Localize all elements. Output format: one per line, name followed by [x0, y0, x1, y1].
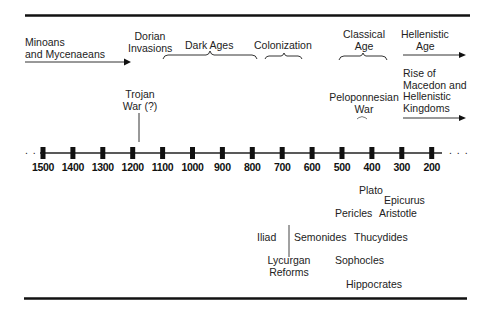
dark-ages-brace [163, 51, 257, 59]
colonization-brace [265, 53, 302, 59]
trojan-war-line1: Trojan [117, 89, 163, 101]
semonides-label: Semonides [294, 232, 347, 244]
macedon-line1: Rise of [403, 68, 467, 80]
macedon-label: Rise of Macedon and Hellenistic Kingdoms [403, 68, 467, 114]
tick-mark [250, 147, 255, 159]
tick-mark [310, 147, 315, 159]
minoans-arrowhead [124, 59, 131, 66]
tick-label: 800 [244, 161, 261, 173]
dorian-line2: Invasions [128, 43, 172, 55]
macedon-line4: Kingdoms [403, 103, 467, 115]
peloponnesian-brace [357, 117, 367, 120]
tick-label: 1200 [122, 161, 144, 173]
epicurus-label: Epicurus [384, 195, 425, 207]
classical-line1: Classical [337, 29, 391, 41]
tick-mark [190, 147, 195, 159]
tick-label: 1300 [92, 161, 114, 173]
minoans-label: Minoans and Mycenaeans [25, 37, 105, 60]
tick-mark [280, 147, 285, 159]
tick-label: 1100 [152, 161, 174, 173]
tick-mark [429, 147, 434, 159]
leading-ellipsis: . . . [25, 145, 45, 157]
tick-label: 1500 [32, 161, 54, 173]
tick-label: 700 [274, 161, 291, 173]
tick-label: 1000 [181, 161, 203, 173]
tick-label: 1400 [62, 161, 84, 173]
macedon-line3: Hellenistic [403, 91, 467, 103]
tick-mark [100, 147, 105, 159]
tick-mark [399, 147, 404, 159]
aristotle-label: Aristotle [379, 208, 417, 220]
tick-mark [220, 147, 225, 159]
tick-mark [70, 147, 75, 159]
lycurgan-line2: Reforms [265, 267, 313, 279]
dorian-line1: Dorian [128, 31, 172, 43]
tick-mark [369, 147, 374, 159]
trojan-war-label: Trojan War (?) [117, 89, 163, 112]
peloponnesian-line2: War [326, 104, 402, 116]
tick-mark [130, 147, 135, 159]
tick-label: 200 [423, 161, 440, 173]
tick-label: 500 [334, 161, 351, 173]
tick-mark [340, 147, 345, 159]
thucydides-label: Thucydides [354, 232, 408, 244]
tick-mark [160, 147, 165, 159]
tick-label: 300 [393, 161, 410, 173]
trojan-war-line2: War (?) [117, 101, 163, 113]
tick-label: 600 [304, 161, 321, 173]
tick-label: 900 [214, 161, 231, 173]
lycurgan-line1: Lycurgan [265, 255, 313, 267]
plato-label: Plato [359, 185, 383, 197]
colonization-label: Colonization [254, 40, 312, 52]
pericles-label: Pericles [335, 208, 372, 220]
lycurgan-label: Lycurgan Reforms [265, 255, 313, 278]
trailing-ellipsis: . . . [449, 145, 469, 157]
minoans-line2: and Mycenaeans [25, 49, 105, 61]
hellenistic-line2: Age [401, 41, 449, 53]
peloponnesian-war-label: Peloponnesian War [326, 92, 402, 115]
classical-label: Classical Age [337, 29, 391, 52]
hellenistic-arrowhead [459, 52, 466, 58]
classical-brace [339, 53, 387, 60]
dark-ages-label: Dark Ages [185, 40, 233, 52]
tick-label: 400 [364, 161, 381, 173]
macedon-arrowhead [459, 115, 466, 121]
classical-line2: Age [337, 41, 391, 53]
hellenistic-label: Hellenistic Age [401, 29, 449, 52]
peloponnesian-line1: Peloponnesian [326, 92, 402, 104]
iliad-label: Iliad [257, 232, 276, 244]
hippocrates-label: Hippocrates [346, 279, 402, 291]
sophocles-label: Sophocles [335, 255, 384, 267]
dorian-label: Dorian Invasions [128, 31, 172, 54]
minoans-line1: Minoans [25, 37, 105, 49]
hellenistic-line1: Hellenistic [401, 29, 449, 41]
